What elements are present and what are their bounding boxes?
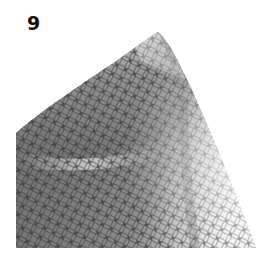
folded-fabric-image: [0, 0, 276, 261]
